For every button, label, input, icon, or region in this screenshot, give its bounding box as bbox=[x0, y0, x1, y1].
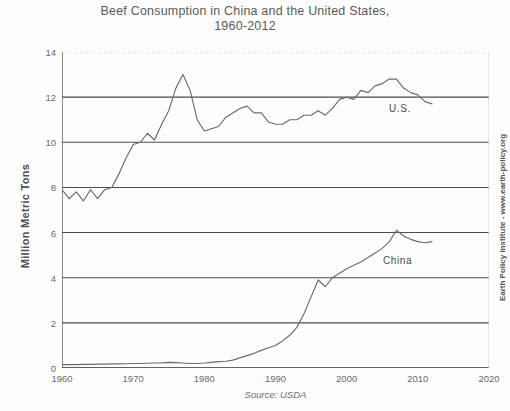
y-tick-label: 10 bbox=[34, 137, 56, 148]
credit-container: Earth Policy Institute - www.earth-polic… bbox=[494, 80, 508, 360]
plot-svg bbox=[62, 52, 489, 368]
x-tick-label: 1990 bbox=[256, 373, 296, 384]
data-series-lines bbox=[62, 75, 432, 365]
y-tick-label: 6 bbox=[34, 227, 56, 238]
axis-ticks bbox=[62, 52, 489, 368]
earth-policy-institute-credit: Earth Policy Institute - www.earth-polic… bbox=[498, 84, 507, 352]
y-axis-tick-labels: 02468101214 bbox=[30, 52, 56, 368]
x-tick-label: 1980 bbox=[184, 373, 224, 384]
gridlines bbox=[62, 52, 489, 368]
beef-consumption-chart: Beef Consumption in China and the United… bbox=[0, 0, 510, 411]
y-tick-label: 0 bbox=[34, 363, 56, 374]
x-tick-label: 1960 bbox=[42, 373, 82, 384]
plot-area bbox=[62, 52, 489, 368]
x-tick-label: 2020 bbox=[469, 373, 509, 384]
series-label-us: U.S. bbox=[389, 103, 411, 114]
y-tick-label: 12 bbox=[34, 92, 56, 103]
y-tick-label: 8 bbox=[34, 182, 56, 193]
x-axis-tick-labels: 1960197019801990200020102020 bbox=[62, 373, 489, 387]
source-caption: Source: USDA bbox=[62, 389, 489, 400]
chart-title: Beef Consumption in China and the United… bbox=[0, 4, 490, 34]
x-tick-label: 2010 bbox=[398, 373, 438, 384]
y-tick-label: 14 bbox=[34, 47, 56, 58]
y-axis-title-container: Million Metric Tons bbox=[8, 52, 28, 368]
y-tick-label: 4 bbox=[34, 272, 56, 283]
axis-lines bbox=[62, 52, 489, 368]
x-tick-label: 2000 bbox=[327, 373, 367, 384]
y-tick-label: 2 bbox=[34, 317, 56, 328]
x-tick-label: 1970 bbox=[113, 373, 153, 384]
series-label-china: China bbox=[383, 255, 412, 266]
